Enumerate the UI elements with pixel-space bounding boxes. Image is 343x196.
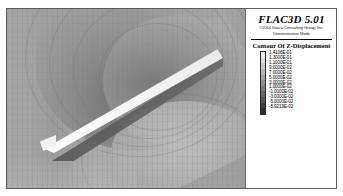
legend-panel: FLAC3D 5.01 ©2014 Itasca Consulting Grou… — [245, 9, 336, 188]
finite-element-mesh — [7, 9, 245, 188]
colorbar-value-label: -5.9219E-02 — [269, 105, 293, 110]
colorbar-labels: 1.4106E-011.3000E-011.1000E-019.0000E-02… — [269, 51, 293, 110]
plot-window: FLAC3D 5.01 ©2014 Itasca Consulting Grou… — [6, 8, 337, 189]
demo-mode-text: Demonstration Mode — [250, 31, 333, 37]
color-scale: 1.4106E-011.3000E-011.1000E-019.0000E-02… — [250, 51, 333, 115]
3d-model-viewport[interactable] — [7, 9, 245, 188]
legend-divider — [251, 39, 332, 40]
colorbar — [260, 51, 266, 115]
contour-title: Contour Of Z-Displacement — [250, 42, 333, 50]
colorbar-swatch — [261, 108, 265, 114]
app-title: FLAC3D 5.01 — [250, 13, 333, 25]
screenshot-root: FLAC3D 5.01 ©2014 Itasca Consulting Grou… — [0, 0, 343, 196]
